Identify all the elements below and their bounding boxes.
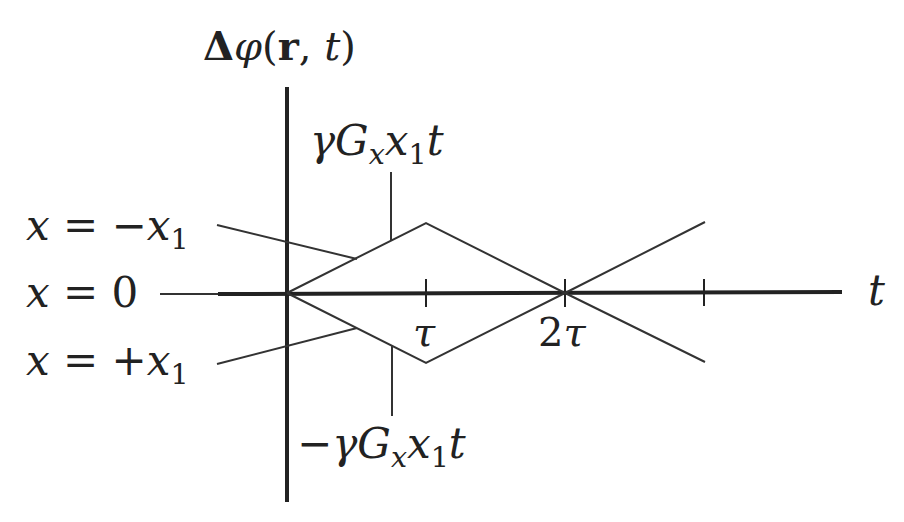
minus-sign: −: [297, 419, 332, 468]
tick-label-tau: τ: [413, 312, 435, 352]
equals: =: [50, 201, 112, 250]
gamma-symbol: γ: [310, 116, 335, 165]
label-x-zero: x = 0: [26, 272, 138, 314]
G-subscript: x: [391, 440, 407, 474]
comma: ,: [299, 23, 324, 69]
x1-var: x: [147, 336, 171, 385]
label-x-plus-x1: x = +x1: [26, 340, 189, 382]
subscript: 1: [170, 222, 188, 256]
tick-sym: τ: [413, 309, 435, 355]
r-symbol: r: [278, 22, 299, 69]
x-subscript: 1: [408, 137, 426, 171]
y-axis-label: Δφ(r, t): [203, 26, 356, 66]
gamma-symbol: γ: [332, 419, 357, 468]
tick-label-2tau: 2τ: [538, 312, 586, 352]
zero-value: 0: [112, 268, 139, 317]
upper-annotation: γGxx1t: [310, 120, 444, 162]
equals: =: [50, 336, 112, 385]
t-symbol: t: [449, 419, 466, 468]
x-subscript: 1: [431, 440, 449, 474]
close-paren: ): [340, 23, 356, 69]
x1-var: x: [147, 201, 171, 250]
x-axis-label: t: [868, 270, 885, 312]
sign: −: [112, 201, 147, 250]
G-subscript: x: [369, 137, 385, 171]
x-var: x: [26, 201, 50, 250]
x-symbol: x: [407, 419, 431, 468]
equals: =: [50, 268, 112, 317]
x-var: x: [26, 268, 50, 317]
subscript: 1: [170, 357, 188, 391]
open-paren: (: [262, 23, 278, 69]
sign: +: [112, 336, 147, 385]
label-x-minus-x1: x = −x1: [26, 205, 189, 247]
delta-symbol: Δ: [203, 22, 234, 69]
G-symbol: G: [357, 419, 391, 468]
x-symbol: x: [385, 116, 409, 165]
tick-num: 2: [538, 309, 563, 355]
t-symbol: t: [324, 23, 340, 69]
G-symbol: G: [335, 116, 369, 165]
tick-sym: τ: [563, 309, 585, 355]
phi-symbol: φ: [234, 23, 262, 69]
x-axis: [218, 292, 842, 294]
t-symbol: t: [427, 116, 444, 165]
lower-annotation: −γGxx1t: [297, 423, 466, 465]
x-var: x: [26, 336, 50, 385]
